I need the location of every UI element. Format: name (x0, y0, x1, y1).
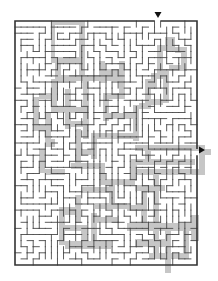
maze-puzzle (0, 0, 218, 281)
entry-arrow-icon (155, 12, 162, 18)
maze-canvas (0, 0, 218, 281)
solution-path-shading (33, 21, 211, 273)
maze-walls (15, 21, 197, 265)
